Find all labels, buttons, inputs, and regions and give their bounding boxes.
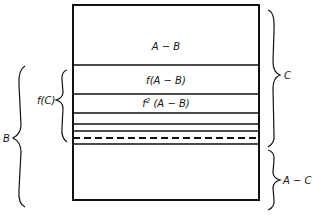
diagram-canvas xyxy=(0,0,321,219)
brace-f-c-icon xyxy=(56,70,67,142)
label-f2-suffix: (A − B) xyxy=(153,98,189,109)
label-f-a-minus-b: f(A − B) xyxy=(146,76,186,86)
brace-a-minus-c-icon xyxy=(268,150,280,210)
label-a-minus-b: A − B xyxy=(152,42,180,52)
label-c: C xyxy=(284,71,291,81)
label-a-minus-c: A − C xyxy=(283,176,312,186)
label-b: B xyxy=(3,134,10,144)
brace-c-icon xyxy=(268,10,280,147)
label-f2-exponent: 2 xyxy=(146,97,150,105)
label-f2-a-minus-b: f2 (A − B) xyxy=(142,98,189,109)
label-f-c: f(C) xyxy=(37,96,55,106)
brace-b-icon xyxy=(13,66,25,207)
